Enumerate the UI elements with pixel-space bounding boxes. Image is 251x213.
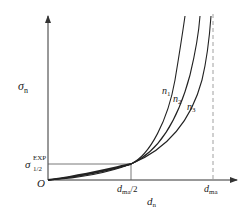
sigma-half-sub: 1/2: [33, 165, 42, 173]
curve-label-n1: n1: [162, 85, 171, 98]
dma-half-label: dma/2: [117, 183, 138, 196]
dma-label: dma: [204, 183, 218, 196]
x-axis-label: dn: [147, 195, 157, 209]
curve-label-n2: n2: [173, 93, 182, 106]
plot-canvas: σn σ EXP 1/2 O dma/2 dma dn n1 n2 n3: [0, 0, 251, 213]
curve-n1: [48, 16, 185, 180]
diagram: σn σ EXP 1/2 O dma/2 dma dn n1 n2 n3: [0, 0, 251, 213]
curve-lower: [48, 164, 131, 180]
curve-label-n3: n3: [187, 101, 196, 114]
sigma-half-label: σ: [25, 158, 31, 170]
y-axis-label: σn: [18, 79, 28, 95]
origin-label: O: [37, 177, 45, 189]
sigma-half-sup: EXP: [33, 154, 46, 162]
curve-n3: [48, 16, 211, 180]
